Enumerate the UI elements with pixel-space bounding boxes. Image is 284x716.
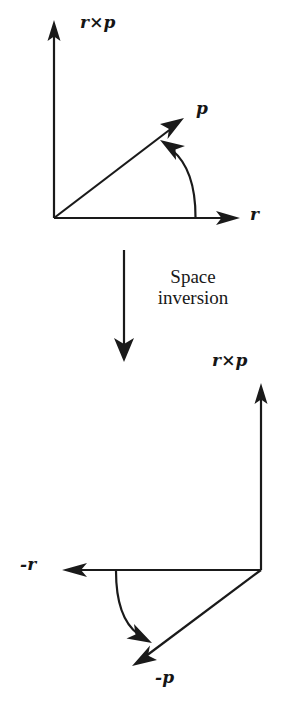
label-top-momentum-p: p (196, 100, 208, 117)
label-top-position-r: r (250, 206, 259, 223)
space-inversion-arrow (114, 250, 134, 362)
label-top-r-cross-p: r×p (80, 14, 116, 31)
bottom-rxp-axis-arrow (255, 383, 268, 570)
top-rotation-arc (160, 140, 196, 217)
bottom-neg-p-vector-arrow (132, 570, 261, 666)
caption-line-2: inversion (138, 287, 248, 308)
top-r-axis-arrow (54, 211, 240, 225)
caption-space-inversion: Space inversion (138, 266, 248, 309)
label-bottom-position-neg-r: -r (20, 556, 36, 573)
bottom-neg-r-axis-arrow (62, 563, 261, 577)
figure-root: r×p p r Space inversion r×p -r -p (0, 0, 284, 716)
top-p-vector-arrow (54, 118, 184, 218)
caption-line-1: Space (138, 266, 248, 287)
bottom-diagram-group (62, 383, 268, 666)
top-diagram-group (48, 20, 241, 225)
label-bottom-r-cross-p: r×p (212, 352, 248, 369)
top-rxp-axis-arrow (48, 20, 61, 218)
label-bottom-momentum-neg-p: -p (155, 669, 174, 686)
bottom-rotation-arc (116, 571, 152, 643)
